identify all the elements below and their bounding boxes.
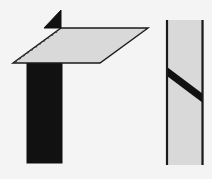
geometric-illustration [0, 0, 212, 179]
black-vertical-rectangle [27, 63, 62, 163]
figure-canvas [0, 0, 212, 179]
elevation-view-group [166, 20, 204, 165]
